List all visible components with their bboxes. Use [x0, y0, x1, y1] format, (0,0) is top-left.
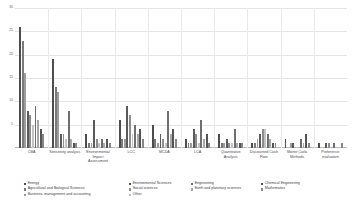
y-tick-label: 30: [9, 6, 13, 10]
legend-item-label: Chemical Engineering: [265, 182, 300, 186]
legend-item[interactable]: Business, management and accounting: [24, 193, 129, 197]
legend-swatch-icon: [24, 188, 26, 190]
legend-swatch-icon: [191, 188, 193, 190]
legend-item[interactable]: Other: [129, 193, 191, 197]
bar: [75, 143, 77, 148]
bar-cluster: [314, 8, 347, 148]
legend-swatch-icon: [129, 188, 131, 190]
legend-item[interactable]: Environmental Sciences: [129, 182, 191, 186]
legend-item[interactable]: Agricultural and Biological Sciences: [24, 187, 129, 191]
bar: [142, 139, 144, 148]
bar-cluster: [214, 8, 247, 148]
x-axis-label: Discounted Cash Flow: [247, 150, 280, 164]
legend-swatch-icon: [261, 183, 263, 185]
legend-item-label: Earth and planetary sciences: [195, 187, 241, 191]
legend-item-label: Mathematics: [265, 187, 285, 191]
x-axis-labels: CBASensitivity analysisEnvironmental Imp…: [15, 150, 347, 164]
chart-legend: EnergyEnvironmental SciencesEngineeringC…: [24, 182, 334, 197]
x-axis-label: Sensitivity analysis: [48, 150, 81, 164]
legend-swatch-icon: [129, 194, 131, 196]
bar-cluster: [247, 8, 280, 148]
x-axis-label: LCC: [115, 150, 148, 164]
bar: [308, 143, 310, 148]
x-axis-label: Preference evaluation: [314, 150, 347, 164]
legend-item[interactable]: Engineering: [191, 182, 261, 186]
legend-item-label: Energy: [28, 182, 39, 186]
bar: [328, 143, 330, 148]
bar: [292, 143, 294, 148]
legend-swatch-icon: [24, 194, 26, 196]
bar: [275, 143, 277, 148]
bar-cluster: [115, 8, 148, 148]
legend-item-label: Other: [133, 193, 142, 197]
bar: [175, 139, 177, 148]
bar-cluster: [148, 8, 181, 148]
bar-clusters: [15, 8, 347, 148]
legend-swatch-icon: [129, 183, 131, 185]
legend-swatch-icon: [261, 188, 263, 190]
x-axis-label: MCDA: [148, 150, 181, 164]
x-axis-label: Monte Carlo Methods: [281, 150, 314, 164]
legend-swatch-icon: [24, 183, 26, 185]
y-axis: 30252015105: [0, 8, 14, 148]
y-tick-label: 25: [9, 30, 13, 34]
y-tick-label: 20: [9, 53, 13, 57]
plot-area: 30252015105 CBASensitivity analysisEnvir…: [0, 0, 354, 178]
bar-cluster: [15, 8, 48, 148]
y-tick-label: 5: [11, 123, 13, 127]
bar: [42, 134, 44, 148]
bar: [318, 143, 320, 148]
bar-cluster: [48, 8, 81, 148]
bar-cluster: [81, 8, 114, 148]
bar: [109, 143, 111, 148]
legend-item-label: Social sciences: [133, 187, 158, 191]
legend-item-label: Engineering: [195, 182, 214, 186]
grouped-bar-chart: 30252015105 CBASensitivity analysisEnvir…: [0, 0, 354, 215]
legend-item[interactable]: Social sciences: [129, 187, 191, 191]
bar: [285, 139, 287, 148]
bar-cluster: [281, 8, 314, 148]
legend-swatch-icon: [191, 183, 193, 185]
legend-item-label: Agricultural and Biological Sciences: [28, 187, 85, 191]
bar: [341, 143, 343, 148]
x-axis-label: Environmental Impact Assessment: [81, 150, 114, 164]
x-axis-label: CBA: [15, 150, 48, 164]
bar-cluster: [181, 8, 214, 148]
x-axis-label: LCA: [181, 150, 214, 164]
legend-item-label: Environmental Sciences: [133, 182, 172, 186]
bar: [241, 143, 243, 148]
legend-item[interactable]: Mathematics: [261, 187, 334, 191]
bar: [333, 143, 335, 148]
x-axis-label: Quantitative Analysis: [214, 150, 247, 164]
legend-item[interactable]: Earth and planetary sciences: [191, 187, 261, 191]
legend-item[interactable]: Chemical Engineering: [261, 182, 334, 186]
bar: [208, 143, 210, 148]
y-tick-label: 15: [9, 76, 13, 80]
legend-item-label: Business, management and accounting: [28, 193, 91, 197]
y-tick-label: 10: [9, 100, 13, 104]
legend-item[interactable]: Energy: [24, 182, 129, 186]
